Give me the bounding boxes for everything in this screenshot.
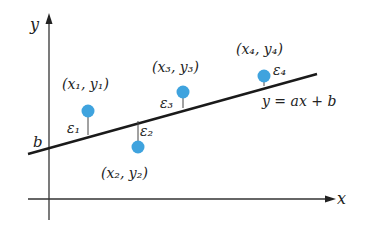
data-point-2 — [132, 141, 145, 154]
residuals — [88, 76, 264, 147]
data-point-4 — [258, 70, 271, 83]
regression-diagram: y x b y = ax + b (x₁, y₁) (x₂, y₂) (x₃, … — [0, 0, 371, 232]
line-equation: y = ax + b — [261, 93, 336, 109]
data-point-1 — [82, 105, 95, 118]
diagram-canvas: y x b y = ax + b (x₁, y₁) (x₂, y₂) (x₃, … — [0, 0, 371, 232]
x-axis-arrow-icon — [325, 196, 336, 203]
residual-1-label: ε₁ — [67, 120, 80, 136]
residual-2-label: ε₂ — [140, 123, 154, 139]
y-axis-arrow-icon — [46, 13, 53, 24]
point-3-label: (x₃, y₃) — [152, 59, 199, 75]
x-axis-label: x — [337, 189, 346, 208]
y-axis-label: y — [29, 15, 40, 34]
intercept-label: b — [33, 133, 43, 151]
data-points — [82, 70, 271, 154]
residual-4-label: ε₄ — [273, 62, 287, 78]
point-4-label: (x₄, y₄) — [236, 41, 283, 57]
point-1-label: (x₁, y₁) — [62, 76, 109, 92]
residual-3-label: ε₃ — [160, 95, 174, 111]
point-2-label: (x₂, y₂) — [101, 165, 148, 181]
axes — [28, 13, 336, 220]
data-point-3 — [177, 86, 190, 99]
